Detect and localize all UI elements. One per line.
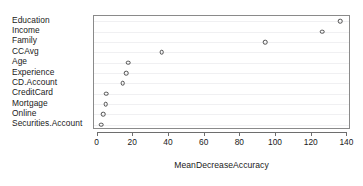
x-tick-mark [311,132,312,136]
x-tick-label: 0 [94,137,99,147]
category-label: Income [0,26,87,35]
data-point [124,71,129,76]
x-tick-mark [204,132,205,136]
x-tick-label: 60 [199,137,208,147]
data-point [104,91,109,96]
x-tick-mark [97,132,98,136]
data-point [320,29,325,34]
x-tick-mark [275,132,276,136]
data-point [99,123,104,128]
x-axis-title: MeanDecreaseAccuracy [93,160,350,170]
variable-importance-dotchart: EducationIncomeFamilyCCAvgAgeExperienceC… [0,0,363,186]
x-tick-mark [239,132,240,136]
category-label: Online [0,109,87,118]
category-label: Age [0,57,87,66]
category-label: CreditCard [0,88,87,97]
x-axis-line [97,132,347,133]
category-label: Education [0,16,87,25]
data-points [94,16,349,128]
x-tick-label: 80 [235,137,244,147]
x-tick-mark [346,132,347,136]
data-point [101,112,106,117]
x-axis: 020406080100120140 [93,129,350,159]
category-label: CD.Account [0,78,87,87]
category-label: Family [0,36,87,45]
category-label: Mortgage [0,99,87,108]
data-point [120,81,125,86]
data-point [338,19,343,24]
plot-frame [93,15,350,129]
data-point [263,40,268,45]
x-tick-label: 140 [339,137,353,147]
x-tick-label: 40 [163,137,172,147]
category-label: CCAvg [0,47,87,56]
category-axis-labels: EducationIncomeFamilyCCAvgAgeExperienceC… [0,15,90,129]
x-tick-mark [132,132,133,136]
data-point [126,60,131,65]
category-label: Experience [0,68,87,77]
data-point [160,50,165,55]
x-tick-mark [168,132,169,136]
category-label: Securities.Account [0,119,87,128]
x-tick-label: 20 [128,137,137,147]
data-point [103,102,108,107]
x-tick-label: 100 [268,137,282,147]
x-tick-label: 120 [304,137,318,147]
